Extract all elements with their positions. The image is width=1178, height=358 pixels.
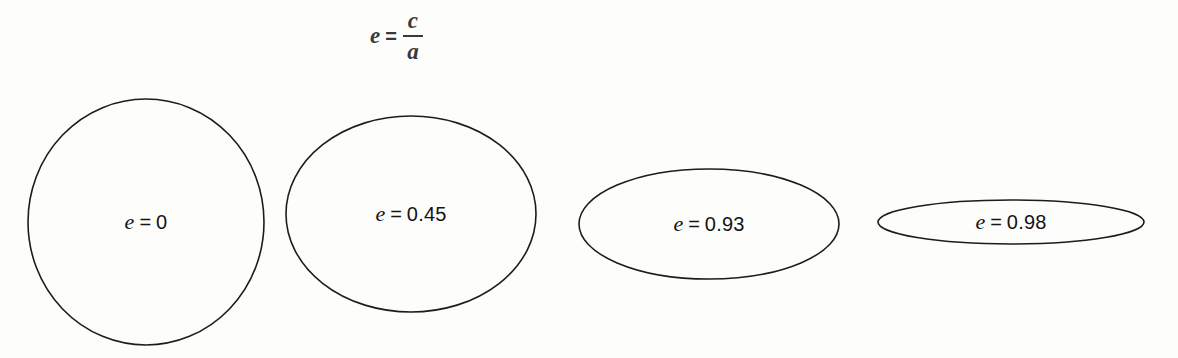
- ellipse-e-045-label-equals: =: [390, 203, 402, 226]
- ellipse-e-0: e = 0: [27, 98, 265, 346]
- ellipse-e-093-label-variable: e: [673, 211, 683, 237]
- formula-variable-e: e: [370, 23, 380, 49]
- ellipse-e-045: e = 0.45: [285, 115, 537, 313]
- ellipse-e-093: e = 0.93: [578, 168, 840, 280]
- ellipse-e-093-label: e = 0.93: [578, 168, 840, 280]
- ellipse-e-098-label-value: 0.98: [1007, 211, 1047, 234]
- eccentricity-formula: e = c a: [370, 8, 423, 64]
- ellipse-e-093-label-equals: =: [688, 213, 700, 236]
- ellipse-e-0-label: e = 0: [27, 98, 265, 346]
- ellipse-e-098-label: e = 0.98: [877, 199, 1145, 245]
- ellipse-e-098: e = 0.98: [877, 199, 1145, 245]
- ellipse-e-0-label-equals: =: [139, 211, 151, 234]
- formula-fraction-bar: [403, 35, 423, 37]
- ellipse-e-0-label-value: 0: [156, 211, 167, 234]
- formula-numerator-c: c: [406, 8, 420, 33]
- formula-equals-sign: =: [385, 25, 397, 48]
- eccentricity-figure: e = c a e = 0 e = 0.45: [0, 0, 1178, 358]
- ellipse-e-093-label-value: 0.93: [705, 213, 745, 236]
- ellipse-e-045-label-value: 0.45: [407, 203, 447, 226]
- ellipse-e-045-label-variable: e: [375, 201, 385, 227]
- formula-denominator-a: a: [405, 39, 421, 64]
- ellipse-e-098-label-equals: =: [990, 211, 1002, 234]
- formula-fraction: c a: [403, 8, 423, 64]
- ellipse-e-0-label-variable: e: [125, 209, 135, 235]
- ellipse-e-098-label-variable: e: [975, 209, 985, 235]
- ellipse-e-045-label: e = 0.45: [285, 115, 537, 313]
